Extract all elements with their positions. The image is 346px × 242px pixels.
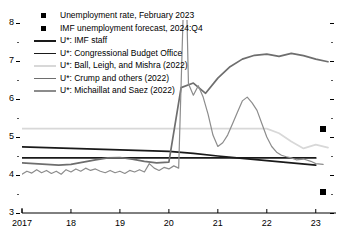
axes-group [22,208,336,213]
legend-square-marker-icon [34,10,56,21]
legend-item[interactable]: U*: Ball, Leigh, and Mishra (2022) [34,60,203,71]
legend-item[interactable]: U*: IMF staff [34,35,203,46]
legend-label: U*: Crump and others (2022) [60,73,169,84]
data-marker-0 [320,126,326,132]
legend-label: U*: IMF staff [60,35,107,46]
legend-label: U*: Congressional Budget Office [60,48,182,59]
series-line-2 [22,129,328,149]
data-marker-1 [320,189,326,195]
legend-item[interactable]: IMF unemployment forecast, 2024:Q4 [34,23,203,34]
legend-item[interactable]: U*: Crump and others (2022) [34,73,203,84]
legend-label: Unemployment rate, February 2023 [60,10,194,21]
legend-line-swatch-icon [34,35,56,46]
legend-line-swatch-icon [34,60,56,71]
legend-label: IMF unemployment forecast, 2024:Q4 [60,23,203,34]
unemployment-chart: 345678 2017181920212223 Unemployment rat… [0,0,346,242]
legend-line-swatch-icon [34,85,56,96]
legend-item[interactable]: Unemployment rate, February 2023 [34,10,203,21]
legend-item[interactable]: U*: Congressional Budget Office [34,48,203,59]
legend-label: U*: Michaillat and Saez (2022) [60,85,175,96]
legend-square-marker-icon [34,23,56,34]
legend-label: U*: Ball, Leigh, and Mishra (2022) [60,60,188,71]
legend-item[interactable]: U*: Michaillat and Saez (2022) [34,85,203,96]
x-tick-marks [22,209,316,213]
chart-legend: Unemployment rate, February 2023IMF unem… [34,10,203,98]
legend-line-swatch-icon [34,48,56,59]
legend-line-swatch-icon [34,73,56,84]
